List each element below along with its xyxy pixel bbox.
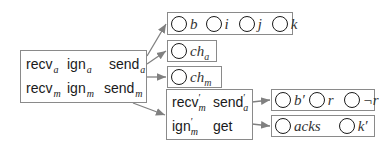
arrow-to-right1 [252,100,270,102]
arrow-to-middle [133,103,165,115]
target-box-acks-kprime: acks k′ [271,115,375,137]
target-box-bprime-r-notr: b′ r ¬r [271,89,375,111]
circle-icon [275,92,291,108]
circle-icon [339,118,355,134]
node-j: j [239,16,262,33]
node-ch-m: chm [171,69,211,86]
circle-icon [275,118,291,134]
node-ch-a: cha [171,43,209,60]
circle-icon [239,16,255,32]
circle-icon [272,16,288,32]
source-box: recva igna senda recvm ignm sendm [20,50,147,103]
node-acks: acks [275,118,321,135]
arrow-to-ch-a [147,51,166,64]
node-i: i [206,16,229,33]
recv-a: recva [26,56,58,72]
send-m: sendm [104,80,143,96]
ign-a: igna [67,56,92,72]
circle-icon [171,16,187,32]
circle-icon [309,92,325,108]
circle-icon [171,43,187,59]
recv-prime-m: recv′m [172,94,206,110]
ign-prime-m: ign′m [172,118,198,134]
node-k: k [272,16,298,33]
node-b-prime: b′ [275,92,305,109]
target-box-ch-m: chm [167,66,222,88]
target-box-bijk: b i j k [167,12,293,35]
send-a: senda [109,56,145,72]
circle-icon [171,69,187,85]
get: get [213,118,232,134]
target-box-ch-a: cha [167,40,217,62]
middle-box: recv′m send′a ign′m get [166,89,253,140]
ign-m: ignm [67,80,94,96]
node-r: r [309,92,334,109]
node-not-r: ¬r [344,92,379,109]
arrow-to-right2 [252,124,270,126]
circle-icon [206,16,222,32]
arrow-to-top [147,24,166,56]
node-k-prime: k′ [339,118,368,135]
send-prime-a: send′a [213,94,248,110]
circle-icon [344,92,360,108]
node-b: b [171,16,198,33]
recv-m: recvm [26,80,61,96]
